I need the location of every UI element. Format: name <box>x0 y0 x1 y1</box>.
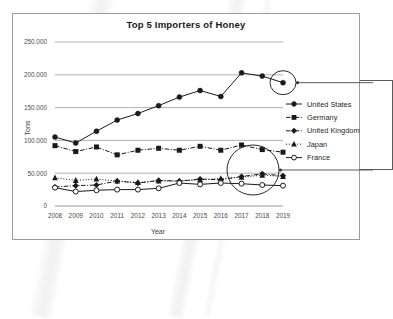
data-point-marker <box>198 88 203 93</box>
data-point-marker <box>73 141 78 146</box>
x-tick-label: 2010 <box>89 212 104 219</box>
data-point-marker <box>198 144 203 149</box>
legend-label-france: France <box>307 153 330 162</box>
legend-label-germany: Germany <box>307 113 338 122</box>
data-point-marker <box>115 187 120 192</box>
data-point-marker <box>115 152 120 157</box>
data-point-marker <box>292 102 297 107</box>
y-tick-label: 250.000 <box>24 38 48 45</box>
data-point-marker <box>53 135 58 140</box>
x-axis-tick-labels: 2008200920102011201220132014201520162017… <box>48 212 291 219</box>
legend-label-japan: Japan <box>307 140 327 149</box>
annotation-leader-dot-top <box>296 81 299 84</box>
x-tick-label: 2013 <box>152 212 167 219</box>
series-line-france <box>55 183 283 192</box>
x-tick-label: 2008 <box>48 212 63 219</box>
x-tick-label: 2017 <box>234 212 249 219</box>
data-point-marker <box>135 111 140 116</box>
series-line-japan <box>55 175 283 182</box>
y-tick-label: 150.000 <box>24 104 48 111</box>
x-axis-title: Year <box>151 228 166 235</box>
data-point-marker <box>156 186 161 191</box>
data-point-marker <box>94 144 99 149</box>
y-tick-label: 200.000 <box>24 71 48 78</box>
x-tick-label: 2019 <box>276 212 291 219</box>
legend-label-united-states: United States <box>307 100 352 109</box>
data-point-marker <box>198 182 203 187</box>
y-axis-title: Tons <box>24 120 31 135</box>
data-point-marker <box>281 183 286 188</box>
data-point-marker <box>156 103 161 108</box>
data-point-marker <box>281 80 286 85</box>
data-point-marker <box>52 174 58 180</box>
data-point-marker <box>239 181 244 186</box>
legend-label-united-kingdom: United Kingdom <box>307 126 360 135</box>
data-point-marker <box>260 74 265 79</box>
series-markers <box>52 70 286 194</box>
data-point-marker <box>260 183 265 188</box>
data-point-marker <box>135 187 140 192</box>
chart-legend: United StatesGermanyUnited KingdomJapanF… <box>286 100 360 163</box>
data-point-marker <box>218 94 223 99</box>
annotation-leader-dot-bottom <box>279 168 282 171</box>
data-point-marker <box>239 70 244 75</box>
x-tick-label: 2012 <box>131 212 146 219</box>
data-point-marker <box>53 185 58 190</box>
data-point-marker <box>218 148 223 153</box>
data-point-marker <box>135 148 140 153</box>
series-markers-france <box>53 181 286 195</box>
x-tick-label: 2009 <box>69 212 84 219</box>
data-point-marker <box>177 95 182 100</box>
y-tick-label: 0 <box>43 202 47 209</box>
data-point-marker <box>292 155 297 160</box>
data-point-marker <box>94 176 100 182</box>
y-tick-label: 100.000 <box>24 137 48 144</box>
data-point-marker <box>73 189 78 194</box>
data-point-marker <box>291 128 297 134</box>
x-tick-label: 2014 <box>172 212 187 219</box>
data-point-marker <box>73 149 78 154</box>
annotation-ellipse-lower-cluster-2019 <box>227 145 279 195</box>
x-tick-label: 2016 <box>214 212 229 219</box>
data-point-marker <box>94 188 99 193</box>
y-tick-label: 50.000 <box>27 170 47 177</box>
data-point-marker <box>281 150 286 155</box>
data-point-marker <box>156 146 161 151</box>
data-point-marker <box>53 143 58 148</box>
data-point-marker <box>260 147 265 152</box>
data-point-marker <box>115 118 120 123</box>
x-tick-label: 2018 <box>255 212 270 219</box>
data-point-marker <box>177 148 182 153</box>
data-point-marker <box>93 182 99 188</box>
data-point-marker <box>177 181 182 186</box>
x-tick-label: 2011 <box>110 212 124 219</box>
series-markers-japan <box>52 172 286 185</box>
series-line-germany <box>55 145 283 155</box>
series-line-united-kingdom <box>55 174 283 187</box>
gridlines <box>55 42 283 206</box>
series-lines <box>55 73 283 192</box>
x-tick-label: 2015 <box>193 212 208 219</box>
data-point-marker <box>94 129 99 134</box>
data-point-marker <box>292 115 297 120</box>
data-point-marker <box>73 183 79 189</box>
data-point-marker <box>218 181 223 186</box>
